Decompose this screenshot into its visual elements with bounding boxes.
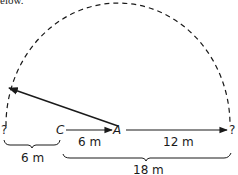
c-to-right-distance: 18 m [133,163,164,175]
dashed-arc [6,3,230,126]
right-unknown-label: ? [229,123,235,137]
left-unknown-label: ? [1,123,7,137]
point-c-label: C [56,123,65,137]
displacement-diagram: ? C A ? 6 m 12 m 6 m 18 m [0,0,238,175]
c-to-a-distance: 6 m [78,135,101,149]
arrow-a-to-arc [9,88,118,126]
a-to-right-distance: 12 m [163,135,194,149]
point-a-label: A [112,123,121,137]
left-to-c-distance: 6 m [21,151,44,165]
brace-c-to-right [63,153,231,161]
brace-left-to-c [4,140,60,148]
